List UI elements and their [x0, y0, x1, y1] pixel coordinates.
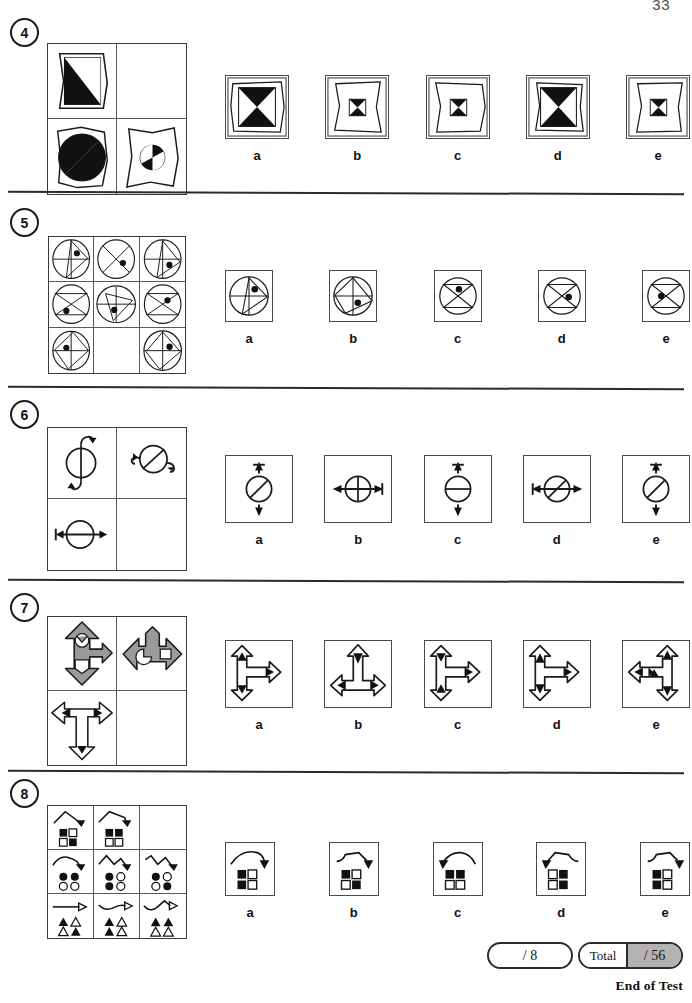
option-5-d-box[interactable]	[538, 270, 586, 322]
matrix-cell-r1c2	[94, 237, 139, 282]
option-7-c-box[interactable]	[424, 640, 492, 708]
option-5-d-label: d	[558, 331, 566, 346]
option-6-b[interactable]: b	[324, 455, 392, 547]
option-5-c-box[interactable]	[434, 270, 482, 322]
option-8-e-label: e	[661, 905, 668, 920]
option-4-b[interactable]: b	[325, 75, 389, 163]
options-question-5: a b c	[225, 270, 690, 346]
option-8-c-box[interactable]	[433, 842, 483, 896]
matrix-cell-r1c1	[48, 806, 94, 850]
option-6-d-box[interactable]	[523, 455, 591, 523]
option-7-b-box[interactable]	[324, 640, 392, 708]
option-8-e-box[interactable]	[640, 842, 690, 896]
option-5-a[interactable]: a	[225, 270, 273, 346]
option-8-b-box[interactable]	[329, 842, 379, 896]
question-number-5: 5	[10, 208, 39, 237]
option-8-c[interactable]: c	[433, 842, 483, 920]
matrix-question-7	[47, 616, 187, 766]
option-7-e-label: e	[652, 717, 659, 732]
option-6-c[interactable]: c	[424, 455, 492, 547]
option-5-e-box[interactable]	[642, 270, 690, 322]
option-6-a[interactable]: a	[225, 455, 293, 547]
matrix-cell-r1c2	[117, 428, 186, 499]
matrix-cell-r1c1	[48, 428, 117, 499]
total-score-box[interactable]: Total / 56	[578, 942, 683, 969]
option-6-a-box[interactable]	[225, 455, 293, 523]
option-5-e[interactable]: e	[642, 270, 690, 346]
option-7-d-label: d	[553, 717, 561, 732]
option-4-c[interactable]: c	[426, 75, 490, 163]
option-7-e[interactable]: e	[622, 640, 690, 732]
question-number-7: 7	[10, 593, 39, 622]
option-6-e-label: e	[652, 532, 659, 547]
option-4-b-box[interactable]	[325, 75, 389, 139]
separator-2	[8, 386, 684, 391]
options-question-8: a b c	[225, 842, 690, 920]
option-4-e[interactable]: e	[626, 75, 690, 163]
option-8-b-label: b	[350, 905, 358, 920]
question-number-4: 4	[10, 18, 39, 47]
option-5-a-label: a	[245, 331, 252, 346]
option-6-c-box[interactable]	[424, 455, 492, 523]
option-8-c-label: c	[454, 905, 461, 920]
option-5-b-box[interactable]	[329, 270, 377, 322]
option-5-c[interactable]: c	[434, 270, 482, 346]
question-block-7: 7	[0, 593, 692, 773]
option-6-d[interactable]: d	[523, 455, 591, 547]
options-question-4: a b	[225, 75, 690, 163]
question-block-5: 5	[0, 208, 692, 383]
matrix-cell-r3c2	[94, 894, 140, 938]
option-7-d-box[interactable]	[523, 640, 591, 708]
question-block-6: 6	[0, 400, 692, 575]
option-8-d-box[interactable]	[536, 842, 586, 896]
option-4-c-box[interactable]	[426, 75, 490, 139]
page-number: 33	[652, 0, 670, 13]
option-8-b[interactable]: b	[329, 842, 379, 920]
option-5-c-label: c	[454, 331, 461, 346]
option-4-e-label: e	[654, 148, 661, 163]
matrix-cell-r3c3	[140, 894, 186, 938]
option-6-c-label: c	[454, 532, 461, 547]
option-5-b[interactable]: b	[329, 270, 377, 346]
matrix-question-4	[47, 43, 187, 195]
option-8-a[interactable]: a	[225, 842, 275, 920]
question-block-8: 8	[0, 779, 692, 939]
option-7-b[interactable]: b	[324, 640, 392, 732]
option-4-a-box[interactable]	[225, 75, 289, 139]
question-score-box[interactable]: / 8	[487, 942, 573, 969]
option-7-c[interactable]: c	[424, 640, 492, 732]
matrix-cell-r2c2	[94, 282, 139, 327]
option-7-e-box[interactable]	[622, 640, 690, 708]
option-8-a-box[interactable]	[225, 842, 275, 896]
option-7-a-box[interactable]	[225, 640, 293, 708]
option-4-a[interactable]: a	[225, 75, 289, 163]
option-6-e[interactable]: e	[622, 455, 690, 547]
option-4-c-label: c	[454, 148, 461, 163]
option-6-e-box[interactable]	[622, 455, 690, 523]
option-8-d[interactable]: d	[536, 842, 586, 920]
option-5-e-label: e	[662, 331, 669, 346]
matrix-cell-r3c1	[49, 328, 94, 373]
end-of-test-note: End of Test	[616, 978, 683, 994]
matrix-cell-r2c3	[140, 850, 186, 894]
total-score-value: / 56	[626, 944, 681, 967]
option-4-a-label: a	[253, 148, 260, 163]
option-5-d[interactable]: d	[538, 270, 586, 346]
option-7-d[interactable]: d	[523, 640, 591, 732]
option-8-d-label: d	[557, 905, 565, 920]
option-6-d-label: d	[553, 532, 561, 547]
option-5-a-box[interactable]	[225, 270, 273, 322]
option-5-b-label: b	[349, 331, 357, 346]
option-7-b-label: b	[354, 717, 362, 732]
option-4-e-box[interactable]	[626, 75, 690, 139]
option-4-d[interactable]: d	[526, 75, 590, 163]
matrix-cell-r2c1	[48, 119, 117, 194]
option-6-b-box[interactable]	[324, 455, 392, 523]
matrix-cell-r2c2-blank	[117, 691, 186, 765]
matrix-cell-r1c2	[117, 617, 186, 691]
option-7-a[interactable]: a	[225, 640, 293, 732]
option-4-d-box[interactable]	[526, 75, 590, 139]
option-8-e[interactable]: e	[640, 842, 690, 920]
separator-3	[8, 579, 684, 584]
option-7-a-label: a	[255, 717, 262, 732]
